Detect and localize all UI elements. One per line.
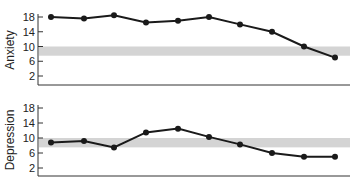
y-tick-label: 14 bbox=[23, 117, 35, 129]
y-axis-label: Anxiety bbox=[3, 30, 17, 69]
data-point bbox=[48, 140, 54, 146]
data-point bbox=[206, 14, 212, 20]
anxiety-panel: 26101418 Anxiety bbox=[3, 11, 350, 85]
y-tick-label: 18 bbox=[23, 102, 35, 114]
chart-svg: 26101418 Anxiety 26101418 Depression bbox=[0, 0, 354, 181]
data-point bbox=[175, 126, 181, 132]
data-point bbox=[332, 154, 338, 160]
data-point bbox=[269, 150, 275, 156]
y-ticks: 26101418 bbox=[23, 102, 43, 174]
data-point bbox=[81, 138, 87, 144]
y-tick-label: 10 bbox=[23, 41, 35, 53]
data-point bbox=[111, 144, 117, 150]
data-point bbox=[332, 55, 338, 61]
data-point bbox=[143, 20, 149, 26]
y-tick-label: 18 bbox=[23, 11, 35, 23]
data-point bbox=[301, 154, 307, 160]
depression-panel: 26101418 Depression bbox=[3, 102, 350, 176]
y-tick-label: 2 bbox=[29, 162, 35, 174]
data-point bbox=[301, 44, 307, 50]
data-point bbox=[111, 12, 117, 18]
y-tick-label: 10 bbox=[23, 132, 35, 144]
y-tick-label: 14 bbox=[23, 26, 35, 38]
y-tick-label: 6 bbox=[29, 55, 35, 67]
data-point bbox=[48, 14, 54, 20]
data-point bbox=[237, 141, 243, 147]
y-tick-label: 6 bbox=[29, 147, 35, 159]
data-point bbox=[143, 129, 149, 135]
data-point bbox=[81, 15, 87, 21]
y-axis-label: Depression bbox=[3, 110, 17, 171]
y-ticks: 26101418 bbox=[23, 11, 43, 82]
data-point bbox=[237, 21, 243, 27]
y-tick-label: 2 bbox=[29, 70, 35, 82]
data-point bbox=[175, 18, 181, 24]
data-point bbox=[206, 134, 212, 140]
data-point bbox=[269, 29, 275, 35]
